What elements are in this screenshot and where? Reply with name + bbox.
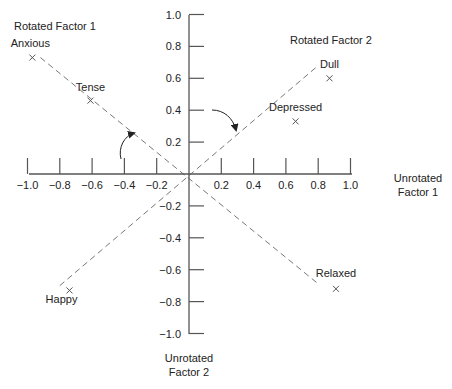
- x-tick-label: 0.8: [311, 179, 326, 191]
- point-label: Tense: [76, 81, 105, 93]
- y-tick-label: −0.8: [159, 296, 181, 308]
- rotation-arrows: [120, 110, 236, 159]
- unrotated-factor-1-label-line1: Unrotated: [394, 172, 442, 184]
- rotated-factor-1-label: Rotated Factor 1: [14, 20, 96, 32]
- data-point-happy: Happy: [46, 287, 78, 305]
- y-tick-label: 0.2: [166, 136, 181, 148]
- data-point-anxious: Anxious: [11, 37, 51, 61]
- unrotated-factor-1-label-line2: Factor 1: [398, 186, 438, 198]
- y-tick-label: 1.0: [166, 9, 181, 21]
- data-point-dull: Dull: [320, 58, 339, 81]
- x-tick-label: 0.2: [214, 179, 229, 191]
- y-tick-label: −0.6: [159, 264, 181, 276]
- factor-rotation-diagram: −1.0−0.8−0.6−0.4−0.20.20.40.60.81.0 1.00…: [0, 0, 452, 389]
- unrotated-factor-2-label-line1: Unrotated: [165, 352, 213, 364]
- y-tick-label: −0.4: [159, 232, 181, 244]
- y-tick-label: −1.0: [159, 328, 181, 340]
- x-tick-label: 1.0: [343, 179, 358, 191]
- y-tick-label: 0.8: [166, 40, 181, 52]
- point-label: Relaxed: [316, 267, 356, 279]
- rotation-arrow-factor2: [212, 110, 236, 130]
- data-point-relaxed: Relaxed: [316, 267, 356, 292]
- x-marker-icon: [333, 286, 339, 292]
- x-marker-icon: [327, 75, 333, 81]
- x-tick-label: 0.4: [246, 179, 261, 191]
- rotated-factor-2-label: Rotated Factor 2: [290, 34, 372, 46]
- x-tick-label: 0.6: [278, 179, 293, 191]
- y-tick-label: 0.6: [166, 72, 181, 84]
- rotation-arrow-factor1: [120, 133, 134, 159]
- x-marker-icon: [29, 55, 35, 61]
- x-tick-label: −0.6: [81, 179, 103, 191]
- point-label: Depressed: [269, 101, 322, 113]
- chart-canvas: −1.0−0.8−0.6−0.4−0.20.20.40.60.81.0 1.00…: [0, 0, 452, 389]
- y-tick-label: 0.4: [166, 104, 181, 116]
- x-marker-icon: [293, 118, 299, 124]
- x-tick-label: −1.0: [17, 179, 39, 191]
- unrotated-axes: −1.0−0.8−0.6−0.4−0.20.20.40.60.81.0 1.00…: [17, 9, 359, 340]
- x-tick-label: −0.8: [49, 179, 71, 191]
- point-label: Dull: [320, 58, 339, 70]
- x-tick-label: −0.2: [146, 179, 168, 191]
- data-point-depressed: Depressed: [269, 101, 322, 124]
- data-point-tense: Tense: [76, 81, 105, 104]
- y-tick-label: −0.2: [159, 200, 181, 212]
- point-label: Happy: [46, 293, 78, 305]
- point-label: Anxious: [11, 37, 51, 49]
- x-tick-label: −0.4: [114, 179, 136, 191]
- unrotated-factor-2-label-line2: Factor 2: [169, 366, 209, 378]
